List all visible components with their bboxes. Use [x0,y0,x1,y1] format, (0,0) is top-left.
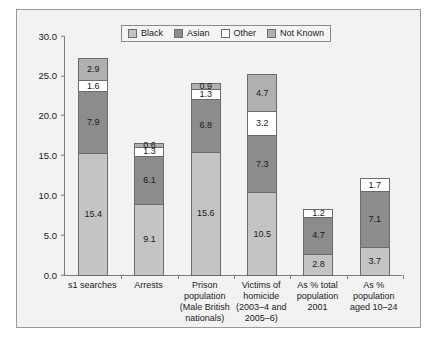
bar-segment-value-label: 9.1 [143,235,156,244]
bar-group[interactable]: 9.16.11.30.6 [121,143,177,275]
bar-group[interactable]: 15.47.91.62.9 [65,58,121,275]
bar-segment-value-label: 2.9 [87,65,100,74]
bar-segment-value-label: 7.3 [256,160,269,169]
y-axis-tick: 10.0 [39,191,66,201]
x-axis-label: s1 searches [64,280,120,291]
bar-segment[interactable]: 7.9 [78,91,108,154]
y-axis-tick-mark [61,36,65,37]
bar-segment[interactable]: 2.8 [303,254,333,276]
bar-segment[interactable]: 15.6 [191,152,221,276]
y-axis-tick-label: 5.0 [44,230,61,240]
bar-segment-value-label: 6.8 [200,121,213,130]
x-axis-tick-mark [403,275,404,279]
bar-segment[interactable]: 3.7 [360,247,390,276]
bar-stack: 15.47.91.62.9 [78,58,108,275]
bar-stack: 10.57.33.24.7 [247,74,277,275]
bar-group[interactable]: 2.84.71.2 [290,209,346,275]
y-axis-tick: 20.0 [39,111,66,121]
bar-segment[interactable]: 1.6 [78,80,108,93]
x-axis-label: Victims ofhomicide(2003–4 and2005–6) [233,280,289,324]
y-axis-tick: 25.0 [39,71,66,81]
y-axis-tick: 15.0 [39,151,66,161]
plot-area: 0.05.010.015.020.025.030.015.47.91.62.99… [64,37,402,276]
bar-segment-value-label: 15.6 [197,209,215,218]
bar-segment-value-label: 0.9 [200,82,213,91]
x-axis-label: Arrests [120,280,176,291]
bar-segment-value-label: 4.7 [312,231,325,240]
y-axis-tick-label: 30.0 [39,31,62,41]
bar-segment[interactable]: 4.7 [303,217,333,254]
x-axis-label-line: Prison [177,280,233,291]
x-axis-label-line: 2005–6) [233,313,289,324]
bar-segment[interactable]: 0.6 [134,143,164,148]
x-axis-label: As %populationaged 10–24 [346,280,402,313]
bar-segment[interactable]: 7.3 [247,135,277,193]
bar-segment[interactable]: 9.1 [134,204,164,276]
x-axis-label-line: homicide [233,291,289,302]
x-axis-label-line: population [289,291,345,302]
x-axis-label-line: 2001 [289,302,345,313]
bar-segment-value-label: 7.1 [369,215,382,224]
bar-segment-value-label: 1.7 [369,181,382,190]
bar-segment-value-label: 4.7 [256,89,269,98]
bar-segment[interactable]: 3.2 [247,111,277,136]
bar-segment[interactable]: 15.4 [78,153,108,276]
y-axis-tick: 0.0 [44,270,65,280]
bar-segment[interactable]: 4.7 [247,74,277,111]
x-axis-tick-mark [290,275,291,279]
x-axis-label: As % totalpopulation2001 [289,280,345,313]
bar-segment-value-label: 1.6 [87,82,100,91]
y-axis-tick-label: 0.0 [44,270,61,280]
chart-figure: Black Asian Other Not Known 0.05.010.015… [16,9,421,328]
bar-segment-value-label: 1.3 [200,90,213,99]
x-axis-label-line: population [177,291,233,302]
x-axis-tick-mark [234,275,235,279]
bar-segment-value-label: 15.4 [84,210,102,219]
bar-segment[interactable]: 1.7 [360,178,390,192]
y-axis-tick-label: 20.0 [39,111,62,121]
bar-segment[interactable]: 1.2 [303,209,333,219]
bar-segment-value-label: 7.9 [87,118,100,127]
y-axis-tick-label: 15.0 [39,151,62,161]
bar-segment[interactable]: 2.9 [78,58,108,81]
x-axis-label-line: nationals) [177,313,233,324]
bar-stack: 15.66.81.30.9 [191,83,221,275]
x-axis-label-line: Victims of [233,280,289,291]
bar-segment[interactable]: 0.9 [191,83,221,90]
x-axis-label-line: As % total [289,280,345,291]
x-axis-label-line: (Male British [177,302,233,313]
y-axis-tick-label: 25.0 [39,71,62,81]
bar-group[interactable]: 15.66.81.30.9 [178,83,234,275]
bar-stack: 2.84.71.2 [303,209,333,275]
y-axis-tick-label: 10.0 [39,191,62,201]
bar-group[interactable]: 3.77.11.7 [347,178,403,275]
y-axis-tick: 30.0 [39,31,66,41]
bar-segment[interactable]: 6.1 [134,156,164,205]
x-axis-tick-mark [121,275,122,279]
x-axis-label-line: aged 10–24 [346,302,402,313]
x-axis-tick-mark [347,275,348,279]
bar-segment[interactable]: 6.8 [191,99,221,153]
x-axis-label-line: Arrests [120,280,176,291]
bar-segment[interactable]: 7.1 [360,191,390,248]
bar-segment-value-label: 0.6 [143,141,156,150]
bar-group[interactable]: 10.57.33.24.7 [234,74,290,275]
bar-segment-value-label: 2.8 [312,260,325,269]
x-axis-label-line: (2003–4 and [233,302,289,313]
x-axis-label: Prisonpopulation(Male Britishnationals) [177,280,233,324]
x-axis-labels: s1 searchesArrestsPrisonpopulation(Male … [64,280,402,328]
bar-segment-value-label: 3.7 [369,257,382,266]
y-axis-tick: 5.0 [44,230,65,240]
x-axis-tick-mark [178,275,179,279]
bar-segment-value-label: 6.1 [143,176,156,185]
x-axis-label-line: population [346,291,402,302]
bar-segment[interactable]: 10.5 [247,192,277,276]
bar-segment-value-label: 10.5 [253,230,271,239]
x-axis-label-line: s1 searches [64,280,120,291]
bar-stack: 3.77.11.7 [360,178,390,275]
bar-stack: 9.16.11.30.6 [134,143,164,275]
bar-segment-value-label: 1.2 [312,209,325,218]
x-axis-label-line: As % [346,280,402,291]
bar-segment-value-label: 3.2 [256,119,269,128]
plot-inner: 0.05.010.015.020.025.030.015.47.91.62.99… [65,37,402,275]
